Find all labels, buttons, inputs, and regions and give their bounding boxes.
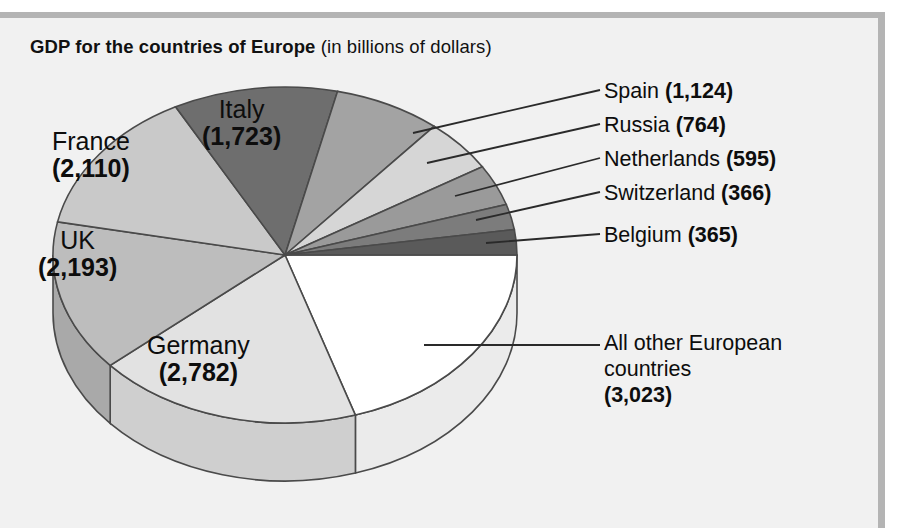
slice-label-uk-name: UK	[38, 227, 117, 254]
callout-russia-name: Russia	[604, 113, 676, 137]
callout-belgium-name: Belgium	[604, 223, 688, 247]
slice-label-germany-value: (2,782)	[147, 359, 250, 386]
callout-belgium: Belgium (365)	[604, 223, 738, 248]
callout-netherlands-name: Netherlands	[604, 147, 726, 171]
callout-switzerland-value: (366)	[721, 181, 771, 205]
slice-label-italy: Italy (1,723)	[202, 96, 281, 149]
slice-label-france: France (2,110)	[52, 128, 130, 181]
callout-belgium-value: (365)	[688, 223, 738, 247]
callout-spain: Spain (1,124)	[604, 79, 733, 104]
callout-russia: Russia (764)	[604, 113, 726, 138]
callout-spain-value: (1,124)	[665, 79, 733, 103]
slice-label-germany-name: Germany	[147, 332, 250, 359]
callout-netherlands: Netherlands (595)	[604, 147, 776, 172]
slice-label-italy-value: (1,723)	[202, 123, 281, 150]
callout-spain-name: Spain	[604, 79, 665, 103]
slice-label-france-name: France	[52, 128, 130, 155]
slice-label-uk: UK (2,193)	[38, 227, 117, 280]
pie-chart-svg	[0, 0, 902, 528]
chart-page: GDP for the countries of Europe (in bill…	[0, 0, 902, 528]
callout-switzerland: Switzerland (366)	[604, 181, 771, 206]
callout-netherlands-value: (595)	[726, 147, 776, 171]
slice-label-france-value: (2,110)	[52, 155, 130, 182]
callout-all-other-line1: All other European	[604, 330, 782, 356]
callout-all-other-line2: countries	[604, 356, 782, 382]
slice-label-germany: Germany (2,782)	[147, 332, 250, 385]
slice-label-italy-name: Italy	[202, 96, 281, 123]
callout-all-other-value: (3,023)	[604, 382, 782, 408]
leader-line-spain	[413, 90, 600, 133]
slice-label-uk-value: (2,193)	[38, 254, 117, 281]
callout-all-other: All other European countries (3,023)	[604, 330, 782, 409]
callout-switzerland-name: Switzerland	[604, 181, 721, 205]
callout-russia-value: (764)	[676, 113, 726, 137]
